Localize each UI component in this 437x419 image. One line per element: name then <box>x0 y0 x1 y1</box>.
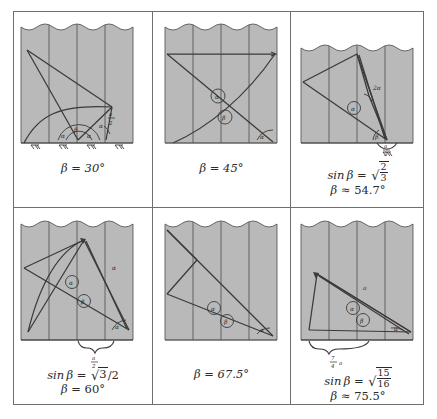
panel-4: α β α α a 2 sin β = √3/2 <box>14 208 152 406</box>
panel-6-sqrt-den: 16 <box>377 379 391 389</box>
panel-2-medium <box>165 24 277 143</box>
panel-1-caption-beta: β = 30° <box>61 161 105 175</box>
panel-3-caption: sin β = √23 β ≈ 54.7° <box>291 162 425 198</box>
svg-text:a: a <box>384 143 387 149</box>
svg-text:α: α <box>350 305 354 312</box>
svg-text:a: a <box>92 355 95 361</box>
svg-text:α: α <box>215 93 219 100</box>
svg-text:β: β <box>221 114 226 122</box>
panel-6-caption-line-2: β ≈ 75.5° <box>291 390 425 404</box>
svg-text:α: α <box>115 323 119 330</box>
svg-text:a: a <box>109 111 112 117</box>
svg-text:β: β <box>359 317 364 325</box>
svg-text:α: α <box>112 264 116 271</box>
panel-5-caption-beta: β = 67.5° <box>194 367 249 381</box>
panel-6-measure-label: 7 4 a <box>330 355 342 369</box>
panel-3-relation: ≈ <box>341 183 351 197</box>
panel-4-brace <box>21 340 133 353</box>
svg-text:α: α <box>260 133 264 140</box>
svg-text:α: α <box>211 305 215 312</box>
svg-text:β: β <box>80 298 85 306</box>
panel-2: α β α β = 45° <box>153 12 290 207</box>
panel-4-sqrt-num: 3 <box>98 367 107 382</box>
panel-5: α β α β = 67.5° <box>153 208 290 406</box>
panel-4-caption: sin β = √3/2 β = 60° <box>14 368 152 396</box>
panel-1-ground-hatch <box>21 143 133 149</box>
svg-text:2: 2 <box>108 120 113 126</box>
panel-2-caption: β = 45° <box>153 162 290 176</box>
svg-text:α: α <box>87 132 91 139</box>
panel-1-caption: β = 30° <box>14 162 152 176</box>
panel-2-diagram: α β α <box>153 12 290 207</box>
panel-3-medium <box>301 45 413 143</box>
panel-5-caption: β = 67.5° <box>153 368 290 382</box>
panel-3-ground-hatch <box>301 143 413 156</box>
figure-root: α β α α a 2 β = 3 <box>0 0 437 419</box>
panel-4-relation: = <box>71 382 81 396</box>
panel-1-diagram: α β α α a 2 <box>14 12 152 207</box>
panel-4-measure-label: a 2 <box>91 355 98 369</box>
panel-3-sqrt-den: 3 <box>380 173 388 183</box>
panel-grid: α β α α a 2 β = 3 <box>13 11 424 405</box>
panel-3-caption-line-1: sin β = √23 <box>291 162 425 184</box>
panel-4-divisor: 2 <box>112 368 119 382</box>
panel-4-caption-line-1: sin β = √3/2 <box>14 368 152 383</box>
svg-text:α: α <box>61 132 65 139</box>
panel-3-two-alpha: 2α <box>372 84 381 91</box>
panel-3: α β 2α a 3 sin β = √23 <box>291 12 425 207</box>
panel-4-caption-line-2: β = 60° <box>14 383 152 397</box>
svg-text:a: a <box>339 360 342 366</box>
panel-6-caption-line-1: sin β = √1516 <box>291 368 425 390</box>
svg-text:β: β <box>73 126 78 134</box>
panel-6: α β α a 7 4 a sin β = <box>291 208 425 406</box>
svg-text:α: α <box>260 326 264 333</box>
svg-text:β: β <box>374 133 379 141</box>
svg-text:α: α <box>69 279 73 286</box>
svg-text:α: α <box>394 325 398 332</box>
svg-text:α: α <box>351 105 355 112</box>
panel-4-beta-value: 60 <box>85 382 100 396</box>
svg-text:3: 3 <box>384 151 388 157</box>
panel-3-beta-value: 54.7 <box>354 183 380 197</box>
panel-6-brace <box>301 340 413 354</box>
panel-6-beta-value: 75.5 <box>354 389 380 403</box>
svg-text:α: α <box>99 122 103 129</box>
panel-1: α β α α a 2 β = 3 <box>14 12 152 207</box>
panel-2-caption-beta: β = 45° <box>200 161 244 175</box>
panel-3-caption-line-2: β ≈ 54.7° <box>291 184 425 198</box>
svg-text:7: 7 <box>331 355 335 361</box>
panel-6-caption: sin β = √1516 β ≈ 75.5° <box>291 368 425 404</box>
panel-6-relation: ≈ <box>341 389 351 403</box>
svg-text:a: a <box>363 284 367 291</box>
svg-text:β: β <box>223 318 228 326</box>
